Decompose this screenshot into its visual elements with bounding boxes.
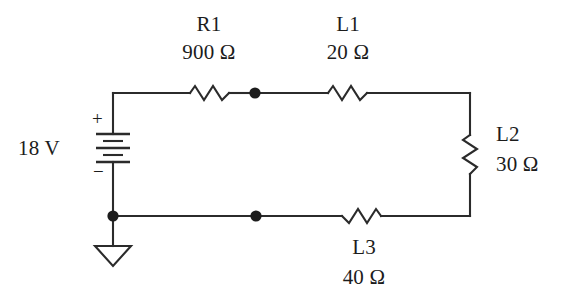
component-l1-value-label: 20 Ω [327, 41, 370, 63]
node-ground-junction-dot [107, 210, 118, 221]
circuit-schematic-svg [0, 0, 579, 304]
circuit-diagram: + − 18 V R1 900 Ω L1 20 Ω L2 30 Ω L3 40 … [0, 0, 579, 304]
resistor-l2-symbol [463, 135, 477, 174]
component-r1-name-label: R1 [197, 13, 222, 35]
node-top-junction-dot [249, 87, 260, 98]
component-l3-value-label: 40 Ω [343, 266, 386, 288]
source-value-label: 18 V [18, 137, 60, 159]
battery-minus-sign: − [93, 161, 104, 183]
component-r1-value-label: 900 Ω [182, 41, 235, 63]
battery-symbol [96, 134, 130, 162]
node-bottom-junction-dot [250, 210, 261, 221]
resistor-l3-symbol [342, 209, 381, 223]
component-l1-name-label: L1 [336, 13, 360, 35]
component-l2-value-label: 30 Ω [496, 153, 539, 175]
component-l3-name-label: L3 [352, 236, 376, 258]
component-l2-name-label: L2 [496, 123, 520, 145]
resistor-l1-symbol [328, 86, 367, 100]
resistor-r1-symbol [190, 86, 229, 100]
battery-plus-sign: + [92, 108, 103, 130]
ground-icon [95, 246, 131, 266]
